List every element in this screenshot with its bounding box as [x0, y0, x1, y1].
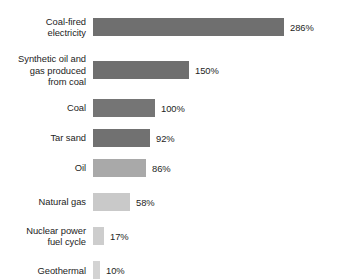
chart-row: Tar sand92%	[0, 129, 347, 147]
chart-row: Natural gas58%	[0, 193, 347, 211]
value-label: 10%	[100, 265, 125, 276]
bar-area: 17%	[93, 227, 347, 245]
value-label: 286%	[284, 22, 314, 33]
bar	[93, 159, 146, 177]
category-label: Synthetic oil and gas produced from coal	[0, 53, 93, 87]
bar-area: 58%	[93, 193, 347, 211]
chart-row: Nuclear power fuel cycle17%	[0, 225, 347, 247]
value-label: 17%	[104, 231, 129, 242]
value-label: 58%	[130, 197, 155, 208]
bar	[93, 193, 130, 211]
value-label: 100%	[155, 103, 185, 114]
chart-row: Coal100%	[0, 99, 347, 117]
bar	[93, 227, 104, 245]
category-label: Tar sand	[0, 132, 93, 143]
category-label: Coal	[0, 102, 93, 113]
chart-row: Geothermal10%	[0, 261, 347, 279]
chart-row: Oil86%	[0, 159, 347, 177]
bar-area: 86%	[93, 159, 347, 177]
bar	[93, 61, 189, 79]
bar-area: 150%	[93, 61, 347, 79]
chart-rows: Coal-fired electricity286%Synthetic oil …	[0, 16, 347, 279]
chart-row: Coal-fired electricity286%	[0, 16, 347, 38]
chart-row: Synthetic oil and gas produced from coal…	[0, 53, 347, 87]
value-label: 92%	[150, 133, 175, 144]
bar-area: 92%	[93, 129, 347, 147]
bar	[93, 99, 155, 117]
category-label: Oil	[0, 162, 93, 173]
value-label: 150%	[189, 65, 219, 76]
bar-area: 286%	[93, 18, 347, 36]
category-label: Coal-fired electricity	[0, 16, 93, 38]
bar	[93, 261, 100, 279]
bar-area: 100%	[93, 99, 347, 117]
bar	[93, 18, 284, 36]
category-label: Geothermal	[0, 265, 93, 276]
bar	[93, 129, 150, 147]
value-label: 86%	[146, 163, 171, 174]
category-label: Natural gas	[0, 196, 93, 207]
category-label: Nuclear power fuel cycle	[0, 225, 93, 247]
bar-area: 10%	[93, 261, 347, 279]
